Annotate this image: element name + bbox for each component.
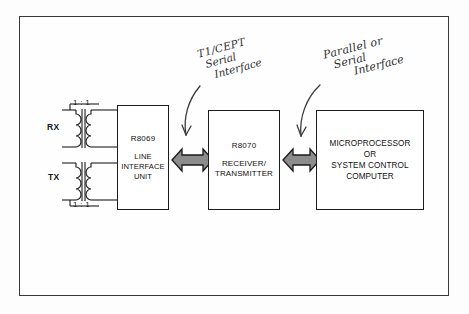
liu-to-rt-bus	[172, 149, 213, 171]
block-description-line: OR	[329, 149, 410, 160]
block-description: LINE INTERFACE UNIT	[121, 152, 165, 182]
block-description-line: INTERFACE	[121, 162, 165, 172]
annotation-arrow-left	[182, 86, 200, 135]
block-receiver-transmitter: R8070 RECEIVER/ TRANSMITTER	[208, 110, 280, 210]
block-description-line: TRANSMITTER	[215, 169, 273, 180]
diagram-canvas: RX TX 1 : 1 1 : 1 R8069 LINE INTERFACE U…	[0, 0, 469, 314]
block-description-line: UNIT	[121, 172, 165, 182]
block-description: MICROPROCESSOR OR SYSTEM CONTROL COMPUTE…	[329, 138, 410, 182]
port-label-rx: RX	[47, 122, 60, 132]
block-part-number: R8069	[131, 134, 156, 143]
block-part-number: R8070	[232, 141, 257, 150]
block-description-line: MICROPROCESSOR	[329, 138, 410, 149]
rt-to-mpu-bus	[283, 149, 320, 171]
block-description-line: SYSTEM CONTROL	[329, 160, 410, 171]
block-description: RECEIVER/ TRANSMITTER	[215, 159, 273, 180]
rx-transformer	[62, 104, 117, 148]
port-label-tx: TX	[48, 172, 60, 182]
rx-transformer-ratio-label: 1 : 1	[73, 98, 90, 107]
tx-transformer-ratio-label: 1 : 1	[73, 200, 90, 209]
block-microprocessor: MICROPROCESSOR OR SYSTEM CONTROL COMPUTE…	[316, 110, 424, 210]
block-description-line: LINE	[121, 152, 165, 162]
block-description-line: COMPUTER	[329, 171, 410, 182]
block-line-interface-unit: R8069 LINE INTERFACE UNIT	[117, 105, 169, 210]
block-description-line: RECEIVER/	[215, 159, 273, 170]
